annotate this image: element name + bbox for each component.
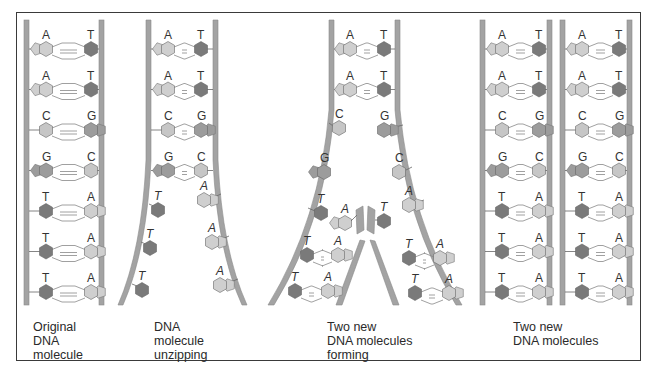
hydrogen-bonds bbox=[508, 165, 533, 181]
hydrogen-bonds bbox=[52, 43, 85, 59]
base-label: T bbox=[146, 227, 155, 241]
base-label: T bbox=[317, 192, 326, 206]
base-label: T bbox=[578, 231, 586, 245]
base-label: T bbox=[578, 190, 586, 204]
caption-new-molecules: Two new DNA molecules bbox=[513, 320, 598, 348]
base-t-icon: T bbox=[576, 271, 589, 300]
hydrogen-bonds bbox=[174, 43, 195, 59]
hydrogen-bonds bbox=[52, 286, 85, 302]
hydrogen-bonds bbox=[52, 124, 85, 140]
base-pair-TA: TA bbox=[485, 271, 553, 302]
hydrogen-bonds bbox=[301, 286, 322, 302]
base-label: A bbox=[87, 231, 95, 245]
base-label: C bbox=[395, 151, 404, 165]
base-pair-GC: GC bbox=[29, 150, 99, 181]
caption-original: Original DNA molecule bbox=[33, 320, 83, 362]
hydrogen-bonds bbox=[588, 246, 613, 262]
hydrogen-bonds bbox=[588, 286, 613, 302]
base-label: T bbox=[42, 190, 50, 204]
base-pair-CG: CG bbox=[485, 109, 553, 140]
base-t-icon: T bbox=[613, 69, 626, 98]
base-label: A bbox=[42, 69, 50, 83]
strand-left bbox=[118, 20, 151, 305]
base-label: A bbox=[42, 28, 50, 42]
base-label: T bbox=[535, 28, 543, 42]
base-t-icon: T bbox=[496, 190, 509, 219]
hydrogen-bonds bbox=[52, 246, 85, 262]
base-label: G bbox=[615, 109, 624, 123]
base-a-icon: A bbox=[153, 28, 175, 57]
base-t-icon: T bbox=[533, 28, 546, 57]
base-label: C bbox=[615, 150, 624, 164]
base-t-icon: T bbox=[576, 231, 589, 260]
hydrogen-bonds bbox=[356, 84, 378, 100]
base-g-icon: G bbox=[195, 109, 216, 138]
base-label: T bbox=[380, 69, 388, 83]
base-label: A bbox=[199, 179, 208, 193]
base-c-icon: C bbox=[613, 150, 626, 179]
base-a-icon: A bbox=[330, 202, 352, 231]
base-a-icon: A bbox=[567, 69, 589, 98]
base-label: A bbox=[323, 270, 332, 284]
base-label: A bbox=[333, 234, 342, 248]
base-label: G bbox=[197, 109, 206, 123]
base-c-icon: C bbox=[40, 109, 53, 138]
base-pair-TA: TA bbox=[565, 271, 633, 302]
base-label: A bbox=[340, 202, 349, 216]
base-label: T bbox=[498, 190, 506, 204]
base-a-icon: A bbox=[335, 28, 357, 57]
base-label: A bbox=[535, 271, 543, 285]
panel-forming: ATATCGTGCAATTATATATA bbox=[268, 20, 463, 305]
base-label: C bbox=[535, 150, 544, 164]
base-label: T bbox=[197, 69, 205, 83]
hydrogen-bonds bbox=[52, 84, 85, 100]
hydrogen-bonds bbox=[588, 165, 613, 181]
strand-right bbox=[627, 20, 632, 305]
base-label: A bbox=[435, 237, 444, 251]
base-label: T bbox=[411, 272, 420, 286]
base-label: T bbox=[615, 28, 623, 42]
base-pair-AT: AT bbox=[485, 69, 547, 100]
base-label: G bbox=[535, 109, 544, 123]
base-pair-CG: CG bbox=[565, 109, 633, 140]
panel-new-molecule-2: ATATCGGCTATATA bbox=[560, 20, 633, 305]
base-t-icon: T bbox=[40, 231, 53, 260]
base-a-icon: A bbox=[31, 28, 53, 57]
base-pair-TA: TA bbox=[565, 190, 633, 221]
base-label: G bbox=[87, 109, 96, 123]
hydrogen-bonds bbox=[588, 124, 613, 140]
incoming-fragment-right bbox=[367, 206, 375, 234]
base-label: A bbox=[615, 190, 623, 204]
hydrogen-bonds bbox=[508, 84, 533, 100]
base-t-icon: T bbox=[40, 190, 53, 219]
base-c-icon: C bbox=[162, 109, 175, 138]
base-pair-AT: AT bbox=[334, 69, 395, 100]
caption-unzipping: DNA molecule unzipping bbox=[154, 320, 208, 362]
base-label: G bbox=[164, 150, 173, 164]
base-label: A bbox=[498, 28, 506, 42]
hydrogen-bonds bbox=[356, 43, 378, 59]
base-label: T bbox=[380, 200, 389, 214]
base-label: A bbox=[615, 271, 623, 285]
hydrogen-bonds bbox=[52, 165, 85, 181]
base-label: A bbox=[215, 264, 224, 278]
base-label: G bbox=[380, 109, 389, 123]
hydrogen-bonds bbox=[313, 250, 332, 266]
hydrogen-bonds bbox=[588, 205, 613, 221]
strand-left bbox=[560, 20, 565, 305]
base-pair-GC: GC bbox=[151, 150, 213, 181]
base-label: A bbox=[346, 69, 354, 83]
base-t-icon: T bbox=[152, 189, 165, 218]
base-c-icon: C bbox=[333, 107, 346, 136]
base-c-icon: C bbox=[576, 109, 589, 138]
base-label: G bbox=[498, 150, 507, 164]
base-label: C bbox=[335, 107, 344, 121]
base-a-icon: A bbox=[335, 69, 357, 98]
base-label: T bbox=[535, 69, 543, 83]
base-label: T bbox=[615, 69, 623, 83]
base-g-icon: G bbox=[31, 150, 53, 179]
base-label: T bbox=[154, 189, 163, 203]
base-pair-CG: CG bbox=[29, 109, 105, 140]
base-t-icon: T bbox=[496, 231, 509, 260]
base-t-icon: T bbox=[85, 28, 98, 57]
